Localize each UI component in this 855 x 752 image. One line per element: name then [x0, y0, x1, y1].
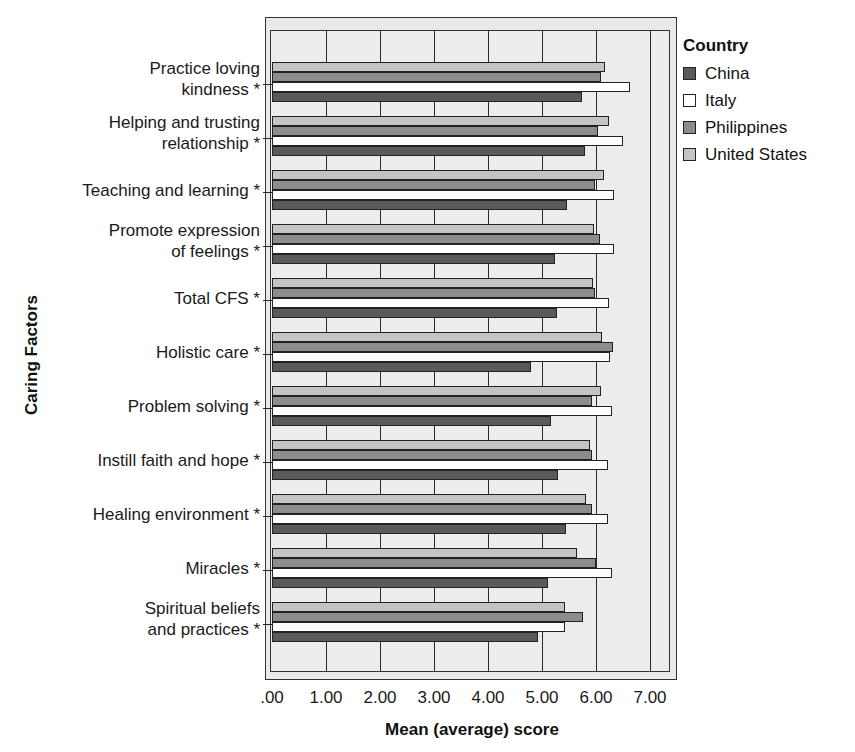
- legend-label: United States: [705, 145, 807, 165]
- bar-china: [272, 578, 548, 588]
- bar-china: [272, 200, 567, 210]
- x-tick-label: 2.00: [363, 688, 396, 708]
- bar-china: [272, 308, 557, 318]
- bar-china: [272, 470, 558, 480]
- y-tick: [263, 354, 272, 355]
- y-tick: [263, 84, 272, 85]
- bar-china: [272, 254, 555, 264]
- category-label: Promote expression of feelings *: [109, 220, 260, 262]
- bar-philippines: [272, 180, 595, 190]
- category-label: Practice loving kindness *: [149, 58, 260, 100]
- legend-item-italy: Italy: [683, 87, 807, 114]
- category-label: Helping and trusting relationship *: [109, 112, 260, 154]
- legend-label: Italy: [705, 91, 736, 111]
- bar-italy: [272, 82, 630, 92]
- category-label: Instill faith and hope *: [97, 450, 260, 471]
- bar-philippines: [272, 396, 592, 406]
- y-axis-title: Caring Factors: [22, 295, 42, 415]
- legend-label: China: [705, 64, 749, 84]
- bar-china: [272, 362, 531, 372]
- x-tick-label: 5.00: [525, 688, 558, 708]
- bar-italy: [272, 352, 610, 362]
- bar-united-states: [272, 386, 601, 396]
- x-tick-label: 7.00: [633, 688, 666, 708]
- y-tick: [263, 300, 272, 301]
- bar-united-states: [272, 602, 565, 612]
- y-tick: [263, 516, 272, 517]
- bar-philippines: [272, 288, 595, 298]
- bar-united-states: [272, 170, 604, 180]
- category-label: Spiritual beliefs and practices *: [145, 598, 260, 640]
- bar-italy: [272, 568, 612, 578]
- bar-united-states: [272, 332, 602, 342]
- bar-china: [272, 92, 582, 102]
- bar-china: [272, 416, 551, 426]
- category-label: Problem solving *: [128, 396, 260, 417]
- category-label: Holistic care *: [156, 342, 260, 363]
- legend-label: Philippines: [705, 118, 787, 138]
- bar-italy: [272, 622, 565, 632]
- legend-item-philippines: Philippines: [683, 114, 807, 141]
- bar-china: [272, 524, 566, 534]
- bar-united-states: [272, 548, 577, 558]
- gridline: [650, 30, 651, 672]
- category-label: Miracles *: [185, 558, 260, 579]
- y-tick: [263, 192, 272, 193]
- category-label: Teaching and learning *: [82, 180, 260, 201]
- legend-swatch-italy: [683, 94, 696, 107]
- y-tick: [263, 246, 272, 247]
- bar-philippines: [272, 234, 600, 244]
- y-tick: [263, 570, 272, 571]
- bar-united-states: [272, 116, 609, 126]
- bar-united-states: [272, 62, 605, 72]
- bar-china: [272, 146, 585, 156]
- category-label: Healing environment *: [93, 504, 260, 525]
- bar-philippines: [272, 126, 598, 136]
- bar-philippines: [272, 504, 592, 514]
- bar-philippines: [272, 342, 613, 352]
- bar-philippines: [272, 558, 596, 568]
- bar-italy: [272, 460, 608, 470]
- bar-united-states: [272, 494, 586, 504]
- bar-united-states: [272, 278, 593, 288]
- bar-philippines: [272, 450, 592, 460]
- bar-italy: [272, 136, 623, 146]
- x-tick-label: 4.00: [471, 688, 504, 708]
- bar-philippines: [272, 72, 601, 82]
- x-tick-label: .00: [260, 688, 284, 708]
- bar-china: [272, 632, 538, 642]
- legend-swatch-china: [683, 67, 696, 80]
- bar-italy: [272, 190, 614, 200]
- y-tick: [263, 138, 272, 139]
- y-tick: [263, 462, 272, 463]
- bar-united-states: [272, 224, 594, 234]
- x-tick-label: 6.00: [579, 688, 612, 708]
- category-label: Total CFS *: [174, 288, 260, 309]
- legend-item-united-states: United States: [683, 141, 807, 168]
- legend-title: Country: [683, 36, 807, 56]
- bar-italy: [272, 244, 614, 254]
- bar-united-states: [272, 440, 590, 450]
- y-tick: [263, 624, 272, 625]
- bar-italy: [272, 514, 608, 524]
- bar-italy: [272, 406, 612, 416]
- legend-swatch-philippines: [683, 121, 696, 134]
- legend: Country China Italy Philippines United S…: [683, 36, 807, 168]
- legend-swatch-united-states: [683, 148, 696, 161]
- x-axis-title: Mean (average) score: [272, 720, 672, 740]
- x-tick-label: 1.00: [309, 688, 342, 708]
- legend-item-china: China: [683, 60, 807, 87]
- y-tick: [263, 408, 272, 409]
- x-tick-label: 3.00: [417, 688, 450, 708]
- bar-italy: [272, 298, 609, 308]
- bar-philippines: [272, 612, 583, 622]
